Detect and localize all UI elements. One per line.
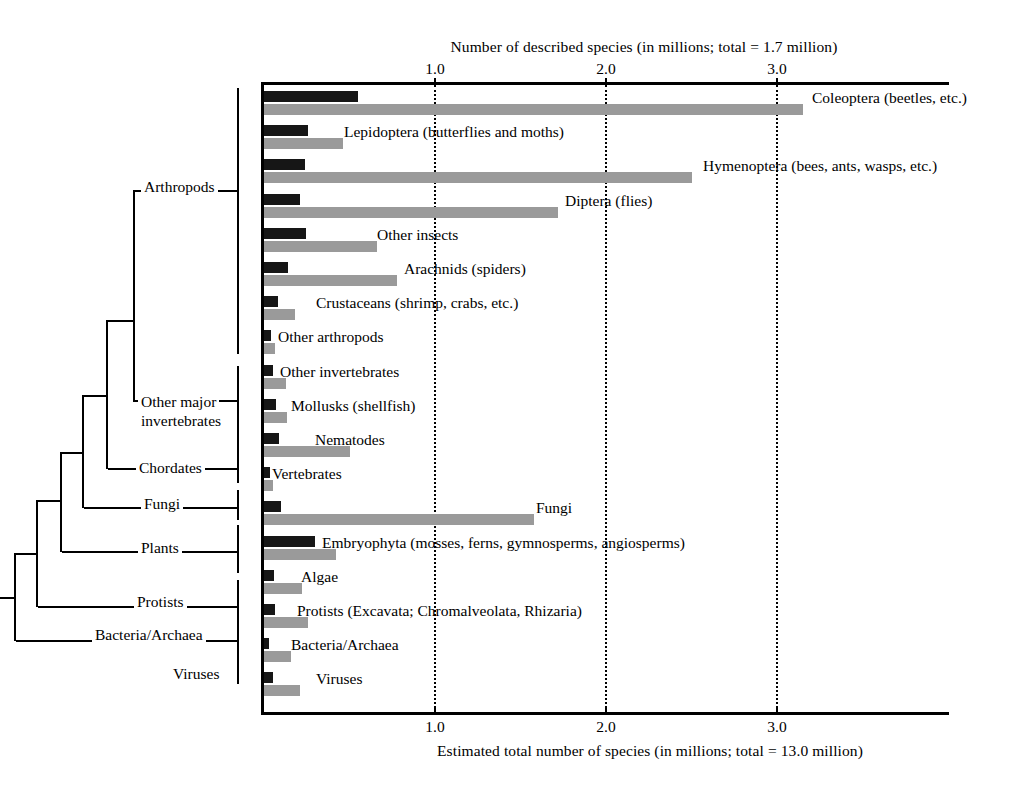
- tick-top-3.0: [776, 78, 778, 85]
- bar-estimated: [264, 207, 558, 218]
- bar-label: Other invertebrates: [280, 363, 399, 381]
- bar-described: [264, 433, 279, 444]
- bar-row: Bacteria/Archaea: [264, 637, 952, 671]
- bar-row: Algae: [264, 569, 952, 603]
- bar-described: [264, 501, 281, 512]
- tick-label-bottom-1.0: 1.0: [425, 718, 444, 736]
- chart-figure: Number of described species (in millions…: [0, 0, 1026, 794]
- clado-viruses-tip: [237, 654, 239, 684]
- bar-described: [264, 125, 308, 136]
- clado-node-protostome-v: [133, 190, 135, 402]
- bar-estimated: [264, 275, 397, 286]
- bar-label: Other arthropods: [278, 328, 383, 346]
- bar-row: Nematodes: [264, 432, 952, 466]
- bar-label: Other insects: [377, 226, 458, 244]
- bar-estimated: [264, 685, 300, 696]
- bar-label: Lepidoptera (butterflies and moths): [344, 123, 564, 141]
- bar-estimated: [264, 104, 803, 115]
- bar-row: Fungi: [264, 500, 952, 534]
- bar-row: Protists (Excavata; Chromalveolata, Rhiz…: [264, 603, 952, 637]
- bar-row: Viruses: [264, 671, 952, 705]
- clado-arthropods-tip: [237, 88, 239, 354]
- clado-fungi-tip: [237, 490, 239, 520]
- bottom-axis-title-text: Estimated total number of species (in mi…: [437, 742, 863, 759]
- bar-row: Vertebrates: [264, 466, 952, 500]
- bar-row: Embryophyta (mosses, ferns, gymnosperms,…: [264, 535, 952, 569]
- bar-row: Arachnids (spiders): [264, 261, 952, 295]
- bar-described: [264, 399, 276, 410]
- clado-node-eukaryotes-stem: [16, 553, 37, 555]
- bar-described: [264, 467, 270, 478]
- bar-described: [264, 194, 300, 205]
- bar-label: Mollusks (shellfish): [291, 397, 415, 415]
- tick-top-1.0: [434, 78, 436, 85]
- clado-label-arthropods: Arthropods: [141, 178, 218, 196]
- clado-label-bacteria-archaea: Bacteria/Archaea: [92, 626, 206, 644]
- top-axis-title: Number of described species (in millions…: [0, 38, 1026, 56]
- bottom-axis-title: Estimated total number of species (in mi…: [0, 742, 1026, 760]
- bar-label: Protists (Excavata; Chromalveolata, Rhiz…: [297, 602, 582, 620]
- bar-estimated: [264, 651, 291, 662]
- clado-label-chordates: Chordates: [136, 459, 205, 477]
- bar-label: Coleoptera (beetles, etc.): [812, 89, 967, 107]
- clado-node-animals-stem: [84, 395, 107, 397]
- tick-top-2.0: [605, 78, 607, 85]
- bar-described: [264, 604, 275, 615]
- bar-estimated: [264, 514, 534, 525]
- bar-described: [264, 365, 273, 376]
- bar-label: Vertebrates: [272, 465, 342, 483]
- tick-bottom-1.0: [434, 708, 436, 715]
- bar-estimated: [264, 138, 343, 149]
- bar-row: Crustaceans (shrimp, crabs, etc.): [264, 295, 952, 329]
- bar-estimated: [264, 343, 275, 354]
- clado-node-protostome-stem: [108, 320, 134, 322]
- bar-estimated: [264, 583, 302, 594]
- bar-estimated: [264, 241, 377, 252]
- bar-described: [264, 570, 274, 581]
- bar-row: Other insects: [264, 227, 952, 261]
- bar-label: Bacteria/Archaea: [291, 636, 399, 654]
- tick-label-bottom-2.0: 2.0: [596, 718, 615, 736]
- tick-label-top-2.0: 2.0: [596, 60, 615, 78]
- bar-label: Crustaceans (shrimp, crabs, etc.): [316, 294, 518, 312]
- bar-described: [264, 159, 305, 170]
- bar-label: Algae: [301, 568, 338, 586]
- clado-node-euk-stem: [38, 500, 61, 502]
- bar-estimated: [264, 412, 287, 423]
- bar-estimated: [264, 309, 295, 320]
- bar-row: Hymenoptera (bees, ants, wasps, etc.): [264, 158, 952, 192]
- bar-described: [264, 536, 315, 547]
- bar-row: Lepidoptera (butterflies and moths): [264, 124, 952, 158]
- clado-label-viruses: Viruses: [170, 665, 222, 683]
- clado-protists-tip: [237, 580, 239, 630]
- clado-node-opistho-stem: [62, 452, 83, 454]
- bar-described: [264, 296, 278, 307]
- bar-label: Hymenoptera (bees, ants, wasps, etc.): [703, 157, 937, 175]
- clado-label-other-major-inv: Other major: [138, 393, 219, 411]
- plot-area: Coleoptera (beetles, etc.)Lepidoptera (b…: [261, 82, 949, 715]
- tick-label-top-3.0: 3.0: [767, 60, 786, 78]
- bar-row: Mollusks (shellfish): [264, 398, 952, 432]
- bar-described: [264, 262, 288, 273]
- clado-label-protists: Protists: [134, 593, 187, 611]
- bar-row: Coleoptera (beetles, etc.): [264, 90, 952, 124]
- tick-label-bottom-3.0: 3.0: [767, 718, 786, 736]
- bar-row: Diptera (flies): [264, 193, 952, 227]
- bar-label: Diptera (flies): [565, 192, 652, 210]
- bar-described: [264, 672, 273, 683]
- bar-label: Embryophyta (mosses, ferns, gymnosperms,…: [322, 534, 685, 552]
- clado-label-plants: Plants: [138, 539, 182, 557]
- bar-described: [264, 91, 358, 102]
- clado-plants-tip: [237, 525, 239, 573]
- bar-label: Nematodes: [315, 431, 385, 449]
- clado-othermajor-tip: [237, 366, 239, 468]
- clado-root-stem: [0, 597, 15, 599]
- bar-described: [264, 638, 269, 649]
- bar-described: [264, 228, 306, 239]
- bar-row: Other invertebrates: [264, 364, 952, 398]
- bar-label: Fungi: [536, 499, 572, 517]
- clado-label-fungi: Fungi: [141, 495, 183, 513]
- bar-described: [264, 330, 271, 341]
- cladogram: ArthropodsOther majorinvertebratesChorda…: [0, 70, 262, 720]
- bar-estimated: [264, 172, 692, 183]
